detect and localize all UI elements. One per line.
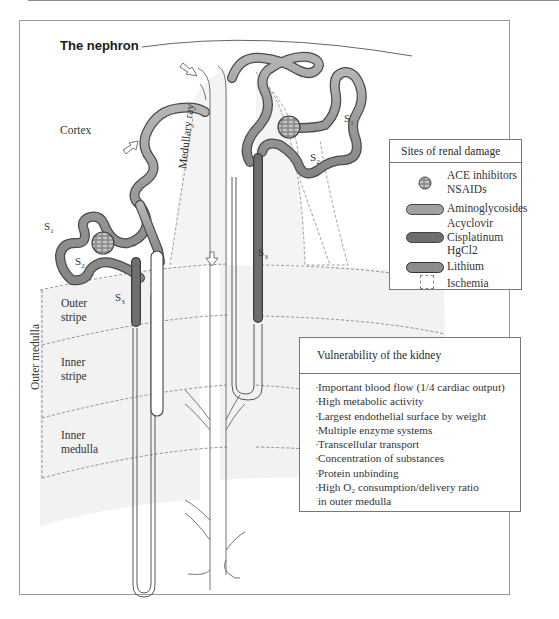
- legend-item-label: Acyclovir Cisplatinum HgCl2: [447, 217, 503, 258]
- list-item: ·Transcellular transport: [315, 437, 520, 451]
- list-item: ·Important blood flow (1/4 cardiac outpu…: [315, 380, 520, 394]
- left-s3-label: S3: [115, 291, 125, 306]
- list-item: ·Concentration of substances: [315, 451, 520, 465]
- right-s1-label: S1: [344, 112, 354, 127]
- zone-label-inner-stripe: Inner stripe: [61, 355, 87, 383]
- list-item: ·Protein unbinding: [315, 466, 520, 480]
- zone-label-outer-stripe: Outer stripe: [61, 296, 87, 324]
- list-item: ·Largest endothelial surface by weight: [315, 409, 520, 423]
- figure-title: The nephron: [60, 38, 139, 53]
- left-glomerulus: [92, 232, 114, 254]
- list-item: ·High O₂ consumption/delivery ratio: [315, 480, 520, 494]
- list-item: ·Multiple enzyme systems: [315, 423, 520, 437]
- proximal-tubule-pill-icon: [406, 204, 444, 215]
- vulnerability-title: Vulnerability of the kidney: [300, 338, 520, 374]
- list-item: in outer medulla: [315, 494, 520, 508]
- zone-label-cortex: Cortex: [60, 123, 91, 137]
- legend-item-label: Lithium: [447, 260, 484, 274]
- vulnerability-list: ·Important blood flow (1/4 cardiac outpu…: [300, 374, 520, 509]
- capsule-arc: [142, 40, 412, 56]
- s3-segment-pill-icon: [406, 232, 444, 243]
- legend-sites-of-renal-damage: Sites of renal damage ACE inhibitors NSA…: [389, 139, 522, 290]
- left-s1-label: S1: [44, 220, 54, 235]
- list-item: ·High metabolic activity: [315, 394, 520, 408]
- right-s2-label: S2: [310, 151, 320, 166]
- vulnerability-panel: Vulnerability of the kidney ·Important b…: [299, 337, 521, 512]
- legend-title: Sites of renal damage: [390, 140, 521, 163]
- legend-item-label: Ischemia: [447, 277, 489, 291]
- right-glomerulus: [278, 116, 300, 138]
- glomerulus-icon: [418, 176, 432, 190]
- zone-label-outer-medulla: Outer medulla: [29, 324, 41, 390]
- zone-label-inner-medulla: Inner medulla: [61, 428, 98, 456]
- legend-item-label: ACE inhibitors NSAIDs: [447, 169, 517, 196]
- dashed-box-icon: [420, 275, 434, 289]
- collecting-duct-pill-icon: [406, 262, 444, 273]
- right-s3-label: S3: [258, 246, 268, 261]
- legend-item-label: Aminoglycosides: [447, 202, 528, 216]
- left-s2-label: S2: [75, 255, 85, 270]
